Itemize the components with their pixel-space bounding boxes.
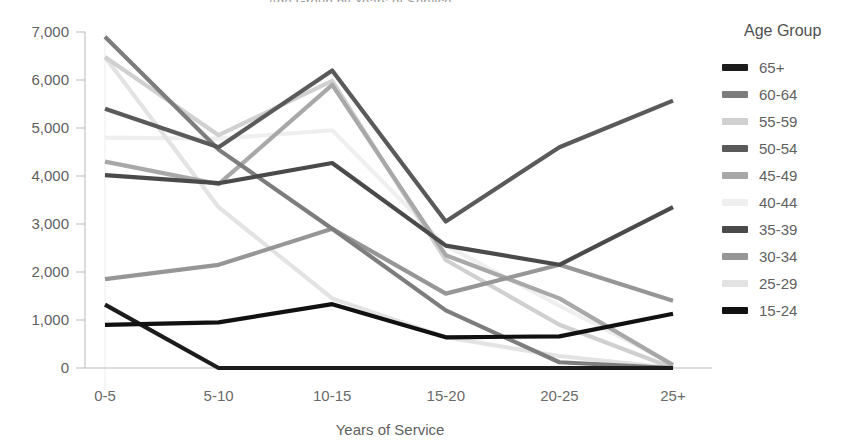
x-tick-label: 5-10 [204, 387, 234, 404]
legend-swatch-icon [722, 253, 748, 260]
legend-item-label: 40-44 [759, 195, 797, 210]
legend-item[interactable]: 15-24 [722, 297, 849, 324]
y-tick-label: 3,000 [31, 215, 69, 232]
legend-item[interactable]: 30-34 [722, 243, 849, 270]
x-tick-label: 15-20 [427, 387, 465, 404]
legend-swatch-icon [722, 172, 748, 179]
legend-item[interactable]: 45-49 [722, 162, 849, 189]
legend-item-label: 65+ [759, 60, 784, 75]
x-tick-label: 0-5 [94, 387, 116, 404]
legend-swatch-icon [722, 307, 748, 314]
legend-item-label: 60-64 [759, 87, 797, 102]
x-axis-ticks: 0-55-1010-1515-2020-2525+ [94, 387, 686, 404]
legend-swatch-icon [722, 64, 748, 71]
x-tick-label: 25+ [660, 387, 686, 404]
series-lines [105, 37, 673, 368]
legend-item-label: 30-34 [759, 249, 797, 264]
legend-item[interactable]: 60-64 [722, 81, 849, 108]
legend-item[interactable]: 55-59 [722, 108, 849, 135]
legend-item[interactable]: 25-29 [722, 270, 849, 297]
legend: Age Group 65+60-6455-5950-5445-4940-4435… [722, 22, 849, 324]
y-tick-label: 2,000 [31, 263, 69, 280]
series-line [105, 229, 673, 301]
x-axis-title: Years of Service [336, 421, 445, 438]
legend-item[interactable]: 50-54 [722, 135, 849, 162]
legend-swatch-icon [722, 91, 748, 98]
legend-swatch-icon [722, 199, 748, 206]
legend-item-label: 25-29 [759, 276, 797, 291]
y-tick-label: 1,000 [31, 311, 69, 328]
legend-item-label: 55-59 [759, 114, 797, 129]
y-tick-label: 0 [61, 359, 69, 376]
legend-item[interactable]: 65+ [722, 54, 849, 81]
y-tick-label: 5,000 [31, 119, 69, 136]
series-line [105, 70, 673, 221]
y-tick-label: 6,000 [31, 71, 69, 88]
legend-item-label: 35-39 [759, 222, 797, 237]
legend-item[interactable]: 40-44 [722, 189, 849, 216]
plot-svg: 01,0002,0003,0004,0005,0006,0007,000 0-5… [0, 0, 720, 446]
legend-item-label: 45-49 [759, 168, 797, 183]
legend-title: Age Group [744, 22, 849, 40]
legend-swatch-icon [722, 145, 748, 152]
x-tick-label: 20-25 [540, 387, 578, 404]
y-tick-label: 4,000 [31, 167, 69, 184]
y-tick-label: 7,000 [31, 23, 69, 40]
plot-area: 01,0002,0003,0004,0005,0006,0007,000 0-5… [0, 0, 720, 446]
legend-items: 65+60-6455-5950-5445-4940-4435-3930-3425… [722, 54, 849, 324]
legend-item-label: 15-24 [759, 303, 797, 318]
legend-swatch-icon [722, 118, 748, 125]
legend-swatch-icon [722, 226, 748, 233]
legend-swatch-icon [722, 280, 748, 287]
line-chart: Age Group by Years of Service 01,0002,00… [0, 0, 849, 446]
x-tick-label: 10-15 [313, 387, 351, 404]
legend-item-label: 50-54 [759, 141, 797, 156]
y-axis-ticks: 01,0002,0003,0004,0005,0006,0007,000 [31, 23, 85, 376]
legend-item[interactable]: 35-39 [722, 216, 849, 243]
